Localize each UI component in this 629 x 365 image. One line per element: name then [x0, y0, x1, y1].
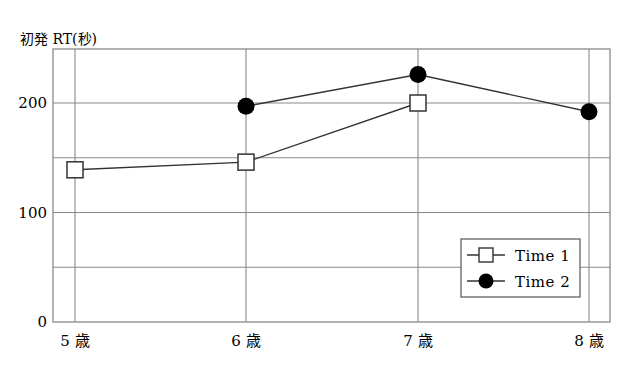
legend-label: Time 2 — [515, 273, 570, 291]
line-chart: 初発 RT(秒) 0100200 5 歳6 歳7 歳8 歳 Time 1 Tim… — [0, 0, 629, 365]
x-tick-label: 5 歳 — [60, 332, 89, 350]
filled-circle-marker-icon — [581, 103, 598, 120]
x-tick-label: 6 歳 — [231, 332, 260, 350]
legend-label: Time 1 — [515, 247, 570, 265]
legend-item-time1: Time 1 — [467, 247, 570, 265]
y-tick-label: 0 — [37, 313, 47, 331]
filled-circle-marker-icon — [238, 98, 255, 115]
open-square-marker-icon — [238, 154, 254, 170]
x-axis-ticks: 5 歳6 歳7 歳8 歳 — [60, 332, 603, 350]
y-axis-label: 初発 RT(秒) — [20, 31, 97, 47]
open-square-marker-icon — [479, 248, 493, 262]
open-square-marker-icon — [67, 162, 83, 178]
y-axis-ticks: 0100200 — [18, 94, 47, 331]
open-square-marker-icon — [410, 95, 426, 111]
filled-circle-marker-icon — [410, 66, 427, 83]
y-tick-label: 200 — [18, 94, 47, 112]
x-tick-label: 8 歳 — [574, 332, 603, 350]
filled-circle-marker-icon — [479, 274, 494, 289]
y-tick-label: 100 — [18, 204, 47, 222]
x-tick-label: 7 歳 — [403, 332, 432, 350]
legend: Time 1 Time 2 — [461, 239, 580, 297]
data-series — [67, 66, 598, 178]
